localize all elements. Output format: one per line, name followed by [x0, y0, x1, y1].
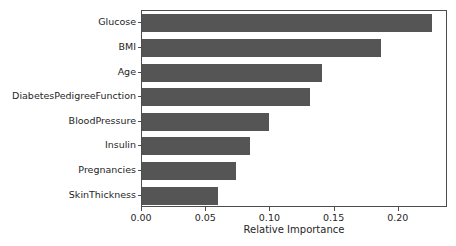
y-tick-label-bloodpressure: BloodPressure [0, 116, 136, 126]
x-tick-label-0.10: 0.10 [259, 212, 280, 223]
x-tick-label-0.05: 0.05 [195, 212, 216, 223]
x-tick-mark [334, 207, 335, 211]
bar-glucose [142, 14, 448, 32]
y-tick-label-glucose: Glucose [0, 17, 136, 27]
bars-layer [142, 11, 446, 206]
x-tick-mark [205, 207, 206, 211]
x-tick-label-0.20: 0.20 [387, 212, 408, 223]
bar-diabetespedigreefunction [142, 88, 448, 106]
bar-fill [142, 64, 322, 82]
y-tick-label-bmi: BMI [0, 42, 136, 52]
y-tick-label-insulin: Insulin [0, 140, 136, 150]
y-tick-label-pregnancies: Pregnancies [0, 165, 136, 175]
bar-insulin [142, 137, 448, 155]
bar-fill [142, 162, 236, 180]
x-tick-label-0.15: 0.15 [323, 212, 344, 223]
x-tick-label-0.00: 0.00 [130, 212, 151, 223]
bar-fill [142, 39, 381, 57]
plot-area [141, 10, 447, 207]
bar-fill [142, 187, 218, 205]
x-tick-mark [141, 207, 142, 211]
bar-fill [142, 88, 310, 106]
y-tick-label-skinthickness: SkinThickness [0, 190, 136, 200]
y-tick-label-diabetespedigreefunction: DiabetesPedigreeFunction [0, 91, 136, 101]
bar-skinthickness [142, 187, 448, 205]
y-axis-tick-labels: GlucoseBMIAgeDiabetesPedigreeFunctionBlo… [0, 10, 136, 207]
bar-fill [142, 14, 432, 32]
x-tick-mark [269, 207, 270, 211]
bar-bloodpressure [142, 113, 448, 131]
figure: GlucoseBMIAgeDiabetesPedigreeFunctionBlo… [0, 0, 456, 246]
x-axis-title: Relative Importance [141, 224, 447, 236]
y-tick-label-age: Age [0, 67, 136, 77]
bar-pregnancies [142, 162, 448, 180]
bar-fill [142, 137, 250, 155]
x-tick-mark [398, 207, 399, 211]
bar-fill [142, 113, 269, 131]
bar-bmi [142, 39, 448, 57]
bar-age [142, 64, 448, 82]
